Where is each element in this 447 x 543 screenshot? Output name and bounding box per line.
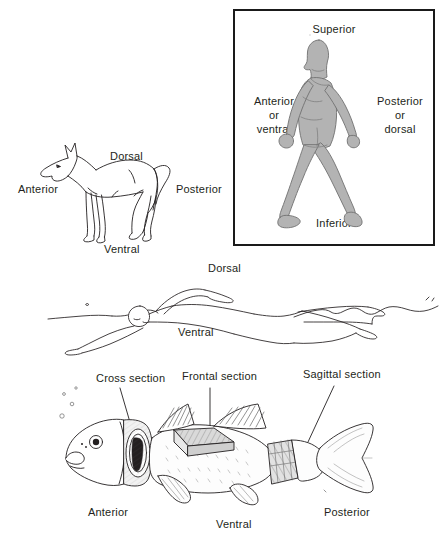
human-reference-box: Superior Anterior or ventral Posterior o… <box>233 9 435 246</box>
anatomical-directions-figure: Superior Anterior or ventral Posterior o… <box>0 0 447 543</box>
fish-anterior-label: Anterior <box>88 506 128 518</box>
human-silhouette-art <box>277 35 401 231</box>
fish-sagittal-section-label: Sagittal section <box>303 368 381 380</box>
fish-ventral-label: Ventral <box>216 518 252 530</box>
dog-posterior-label: Posterior <box>176 183 222 195</box>
fish-line-art <box>62 380 437 505</box>
human-superior-label: Superior <box>235 23 433 35</box>
dog-line-art <box>38 140 173 245</box>
fish-posterior-label: Posterior <box>324 506 370 518</box>
swimmer-line-art <box>48 270 438 355</box>
